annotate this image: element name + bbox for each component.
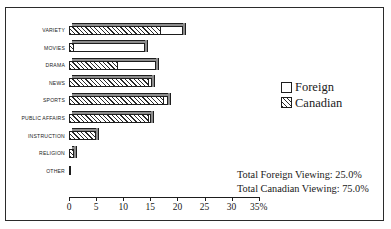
bar-segment-canadian bbox=[69, 131, 96, 140]
bar-religion bbox=[69, 149, 74, 158]
bar-side-face bbox=[74, 146, 77, 158]
legend-label-canadian: Canadian bbox=[295, 97, 342, 110]
category-label-drama: DRAMA bbox=[46, 62, 65, 68]
total-foreign-text: Total Foreign Viewing: 25.0% bbox=[237, 168, 369, 182]
axis-tick-label-25: 25 bbox=[200, 202, 210, 212]
bar-variety bbox=[69, 26, 183, 35]
bar-segment-foreign bbox=[117, 61, 156, 70]
axis-tick-label-35: 35% bbox=[250, 202, 267, 212]
bar-segment-canadian bbox=[69, 96, 164, 105]
bar-side-face bbox=[96, 128, 99, 140]
legend-swatch-canadian-icon bbox=[281, 97, 292, 108]
bar-instruction bbox=[69, 131, 96, 140]
legend-item-canadian: Canadian bbox=[281, 97, 342, 110]
bar-segment-foreign bbox=[148, 114, 151, 123]
bar-drama bbox=[69, 61, 156, 70]
legend-item-foreign: Foreign bbox=[281, 81, 342, 94]
bar-segment-foreign bbox=[73, 43, 144, 52]
bar-side-face bbox=[151, 111, 154, 123]
legend-swatch-foreign-icon bbox=[281, 82, 292, 93]
category-label-instruction: INSTRUCTION bbox=[28, 133, 65, 139]
total-canadian-text: Total Canadian Viewing: 75.0% bbox=[237, 182, 369, 196]
bar-movies bbox=[69, 43, 145, 52]
bar-segment-foreign bbox=[160, 26, 183, 35]
axis-tick-25 bbox=[205, 197, 206, 201]
legend-label-foreign: Foreign bbox=[295, 81, 334, 94]
bar-side-face bbox=[183, 23, 186, 35]
axis-tick-label-20: 20 bbox=[173, 202, 183, 212]
value-axis-line bbox=[69, 197, 259, 198]
bar-segment-foreign bbox=[163, 96, 167, 105]
bar-segment-canadian bbox=[69, 61, 118, 70]
chart-frame: VARIETYMOVIESDRAMANEWSSPORTSPUBLIC AFFAI… bbox=[5, 7, 384, 221]
bar-segment-canadian bbox=[69, 149, 74, 158]
bar-side-face bbox=[152, 75, 155, 87]
axis-tick-label-5: 5 bbox=[94, 202, 99, 212]
bar-news bbox=[69, 78, 152, 87]
bar-segment-foreign bbox=[148, 78, 152, 87]
bar-other bbox=[69, 166, 71, 175]
category-label-public-affairs: PUBLIC AFFAIRS bbox=[21, 115, 65, 121]
bar-side-face bbox=[145, 40, 148, 52]
category-label-religion: RELIGION bbox=[39, 150, 65, 156]
bar-side-face bbox=[168, 93, 171, 105]
category-label-movies: MOVIES bbox=[44, 45, 65, 51]
chart-legend: Foreign Canadian bbox=[281, 81, 342, 112]
axis-tick-5 bbox=[96, 197, 97, 201]
axis-tick-15 bbox=[150, 197, 151, 201]
axis-tick-20 bbox=[177, 197, 178, 201]
plot-area: VARIETYMOVIESDRAMANEWSSPORTSPUBLIC AFFAI… bbox=[6, 8, 383, 220]
axis-tick-label-30: 30 bbox=[227, 202, 237, 212]
bar-side-face bbox=[156, 58, 159, 70]
category-label-sports: SPORTS bbox=[43, 97, 65, 103]
bar-segment-canadian bbox=[69, 166, 71, 175]
category-label-variety: VARIETY bbox=[42, 27, 65, 33]
bar-public-affairs bbox=[69, 114, 151, 123]
category-label-news: NEWS bbox=[49, 80, 65, 86]
bar-sports bbox=[69, 96, 168, 105]
axis-tick-0 bbox=[69, 197, 70, 201]
axis-tick-label-0: 0 bbox=[67, 202, 72, 212]
totals-annotation: Total Foreign Viewing: 25.0% Total Canad… bbox=[237, 168, 369, 196]
category-label-other: OTHER bbox=[46, 168, 65, 174]
axis-tick-10 bbox=[123, 197, 124, 201]
bar-segment-canadian bbox=[69, 114, 149, 123]
axis-tick-label-15: 15 bbox=[146, 202, 156, 212]
axis-tick-35 bbox=[259, 197, 260, 201]
bar-segment-canadian bbox=[69, 78, 149, 87]
axis-tick-30 bbox=[232, 197, 233, 201]
axis-tick-label-10: 10 bbox=[118, 202, 128, 212]
bar-segment-canadian bbox=[69, 26, 161, 35]
